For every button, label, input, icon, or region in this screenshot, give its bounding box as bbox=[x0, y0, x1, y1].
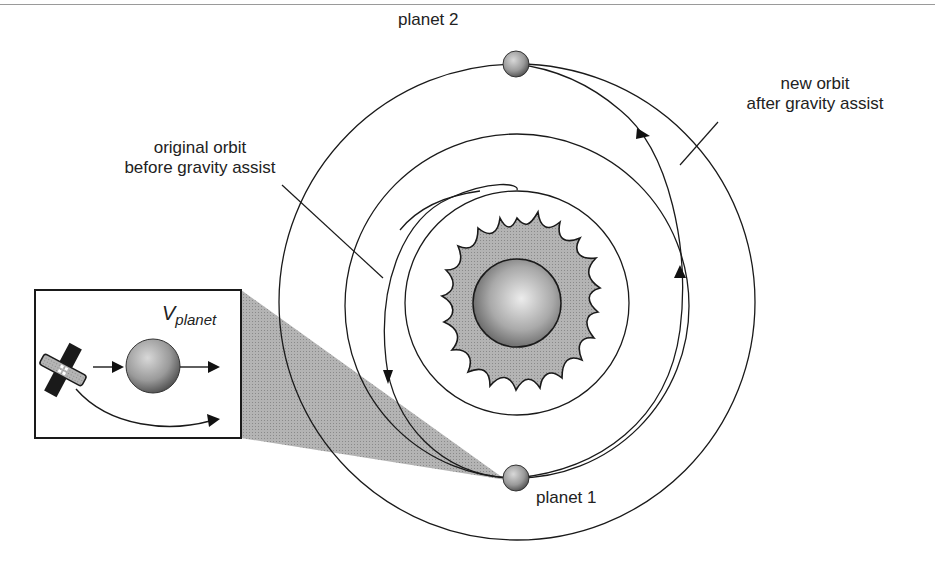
planet-1-label: planet 1 bbox=[536, 488, 597, 508]
leader-new-orbit bbox=[680, 122, 718, 165]
velocity-subscript: planet bbox=[175, 311, 216, 328]
inset-planet bbox=[126, 339, 180, 393]
planet-1 bbox=[503, 465, 529, 491]
velocity-planet-label: Vplanet bbox=[162, 302, 216, 328]
gravity-assist-diagram: planet 2 planet 1 original orbit before … bbox=[0, 0, 935, 565]
planet-2-label: planet 2 bbox=[398, 10, 459, 30]
sun-body bbox=[473, 259, 561, 347]
leader-original-orbit bbox=[282, 185, 383, 278]
velocity-symbol: V bbox=[162, 302, 175, 324]
original-orbit-label-line2: before gravity assist bbox=[100, 158, 300, 178]
original-orbit-label-line1: original orbit bbox=[140, 138, 260, 158]
sun bbox=[442, 212, 600, 390]
arrow-original-orbit bbox=[383, 370, 393, 384]
new-orbit-label-line1: new orbit bbox=[765, 74, 865, 94]
arrow-new-orbit-upper bbox=[636, 128, 650, 139]
new-orbit-label-line2: after gravity assist bbox=[720, 94, 910, 114]
planet-2 bbox=[503, 51, 529, 77]
